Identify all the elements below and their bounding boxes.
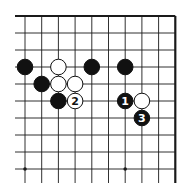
black-stone-move-1: 1 [117, 93, 133, 109]
star-point-icon [23, 167, 27, 171]
white-stone-icon [51, 59, 67, 75]
white-stone [51, 59, 67, 75]
black-stone-icon [34, 76, 50, 92]
move-number: 2 [71, 95, 79, 108]
black-stone [34, 76, 50, 92]
white-stone-move-2: 2 [67, 93, 83, 109]
white-stone-icon [134, 93, 150, 109]
black-stone [84, 59, 100, 75]
black-stone-icon [17, 59, 33, 75]
go-board: 213 [0, 0, 183, 193]
white-stone [67, 76, 83, 92]
stones-layer: 213 [17, 59, 150, 126]
board-grid [15, 16, 175, 183]
white-stone-icon [51, 76, 67, 92]
black-stone [17, 59, 33, 75]
white-stone [51, 76, 67, 92]
black-stone-move-3: 3 [134, 110, 150, 126]
black-stone [51, 93, 67, 109]
move-number: 1 [121, 95, 129, 108]
star-point-icon [123, 167, 127, 171]
black-stone-icon [51, 93, 67, 109]
move-number: 3 [138, 112, 146, 125]
black-stone-icon [84, 59, 100, 75]
white-stone-icon [67, 76, 83, 92]
black-stone [117, 59, 133, 75]
black-stone-icon [117, 59, 133, 75]
white-stone [134, 93, 150, 109]
